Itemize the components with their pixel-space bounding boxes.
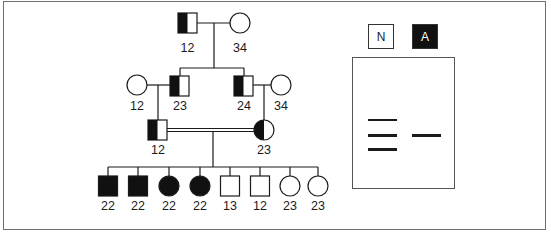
- individual-IV-2: 22: [129, 176, 148, 213]
- genotype-label: 13: [223, 199, 237, 213]
- individual-I-1: 12: [178, 13, 197, 55]
- half-fill-icon: [148, 120, 158, 140]
- genotype-label: 23: [257, 143, 271, 157]
- individual-IV-3: 22: [159, 176, 179, 213]
- half-fill-icon: [254, 120, 264, 140]
- female-circle-icon: [280, 176, 300, 196]
- genotype-label: 24: [237, 99, 251, 113]
- female-circle-icon: [230, 13, 250, 33]
- individual-IV-7: 23: [280, 176, 300, 213]
- half-fill-icon: [234, 76, 244, 96]
- genotype-label: 22: [162, 199, 176, 213]
- genotype-label: 23: [283, 199, 297, 213]
- genotype-label: 23: [311, 199, 325, 213]
- lane-label-normal: N: [368, 24, 394, 49]
- half-fill-icon: [178, 13, 188, 33]
- female-circle-icon: [308, 176, 328, 196]
- individual-II-1: 12: [127, 75, 147, 113]
- pedigree-chart: 12 34 12 23 24 34 12 23 22 22: [0, 0, 551, 235]
- gel-panel: [352, 57, 455, 189]
- individual-I-2: 34: [230, 13, 250, 55]
- lane-label-affected: A: [412, 24, 438, 49]
- individual-IV-5: 13: [221, 176, 240, 213]
- individual-II-4: 34: [271, 75, 291, 113]
- male-affected-square-icon: [99, 176, 118, 196]
- gel-band-normal-3: [368, 148, 397, 151]
- individual-III-2: 23: [254, 120, 274, 157]
- individual-III-1: 12: [148, 120, 167, 157]
- genotype-label: 34: [233, 41, 247, 55]
- genotype-label: 34: [274, 99, 288, 113]
- genotype-label: 22: [193, 199, 207, 213]
- half-fill-icon: [170, 76, 180, 96]
- female-circle-icon: [271, 75, 291, 95]
- individual-IV-6: 12: [251, 176, 270, 213]
- genotype-label: 12: [151, 143, 165, 157]
- individual-IV-1: 22: [99, 176, 118, 213]
- female-affected-circle-icon: [190, 176, 210, 196]
- individual-IV-4: 22: [190, 176, 210, 213]
- individual-II-2: 23: [170, 76, 189, 113]
- genotype-label: 23: [173, 99, 187, 113]
- gel-band-normal-1: [368, 119, 397, 121]
- genotype-label: 22: [131, 199, 145, 213]
- male-affected-square-icon: [129, 176, 148, 196]
- female-circle-icon: [127, 75, 147, 95]
- individual-II-3: 24: [234, 76, 253, 113]
- female-affected-circle-icon: [159, 176, 179, 196]
- male-square-icon: [251, 176, 270, 196]
- gel-band-affected-1: [412, 134, 441, 137]
- gel-band-normal-2: [368, 134, 397, 137]
- genotype-label: 12: [130, 99, 144, 113]
- genotype-label: 12: [253, 199, 267, 213]
- male-square-icon: [221, 176, 240, 196]
- genotype-label: 22: [101, 199, 115, 213]
- individual-IV-8: 23: [308, 176, 328, 213]
- genotype-label: 12: [181, 41, 195, 55]
